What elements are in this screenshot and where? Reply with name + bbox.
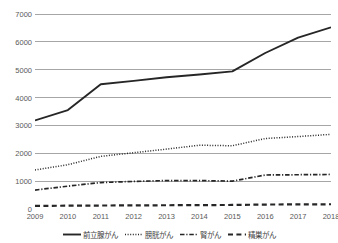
y-tick-label: 1000 [2,177,32,186]
legend-label: 腎がん [200,229,221,240]
series-line-3 [35,204,331,206]
chart-legend: 前立腺がん膀胱がん腎がん精巣がん [0,228,338,241]
x-tick-label: 2011 [93,212,109,221]
x-tick-label: 2016 [257,212,274,221]
x-tick-label: 2012 [125,212,142,221]
line-chart: 70006000500040003000200010000 2009201020… [0,0,338,243]
chart-canvas [35,14,331,209]
legend-item-0[interactable]: 前立腺がん [63,229,118,240]
legend-swatch-dashed-icon [228,231,246,238]
legend-item-1[interactable]: 膀胱がん [125,229,173,240]
y-tick-label: 5000 [2,65,32,74]
x-axis: 2009201020112012201320142015201620172018 [35,212,331,224]
series-lines [35,27,331,206]
legend-swatch-solid-icon [63,231,81,238]
x-tick-label: 2015 [224,212,241,221]
x-tick-label: 2013 [158,212,175,221]
y-tick-label: 6000 [2,37,32,46]
legend-label: 前立腺がん [83,229,118,240]
legend-swatch-dashdot-icon [180,231,198,238]
y-tick-label: 4000 [2,93,32,102]
legend-item-3[interactable]: 精巣がん [228,229,276,240]
legend-label: 精巣がん [248,229,276,240]
y-axis: 70006000500040003000200010000 [0,14,32,209]
plot-area [35,14,331,209]
x-tick-label: 2017 [290,212,307,221]
y-tick-label: 7000 [2,10,32,19]
x-tick-label: 2014 [191,212,208,221]
series-line-0 [35,27,331,120]
legend-swatch-dotted-icon [125,231,143,238]
legend-item-2[interactable]: 腎がん [180,229,221,240]
y-tick-label: 3000 [2,121,32,130]
x-tick-label: 2018 [323,212,338,221]
x-tick-label: 2009 [27,212,44,221]
legend-label: 膀胱がん [145,229,173,240]
series-line-1 [35,134,331,170]
x-tick-label: 2010 [60,212,77,221]
y-tick-label: 2000 [2,149,32,158]
series-line-2 [35,174,331,190]
